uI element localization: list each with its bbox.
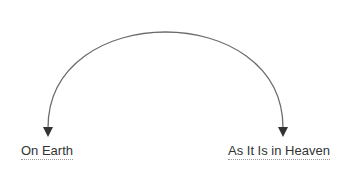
- label-on-earth: On Earth: [21, 143, 73, 160]
- arrowhead-right-icon: [278, 127, 288, 137]
- label-as-it-is-in-heaven: As It Is in Heaven: [228, 143, 330, 160]
- arc-connector: [48, 32, 283, 128]
- arrowhead-left-icon: [43, 127, 53, 137]
